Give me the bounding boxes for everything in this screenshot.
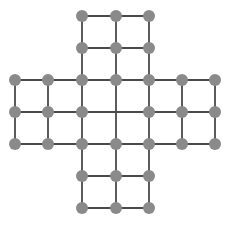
- graph-node: [143, 106, 155, 118]
- graph-node: [143, 138, 155, 150]
- graph-node: [110, 138, 122, 150]
- graph-node: [209, 138, 221, 150]
- graph-node: [9, 138, 21, 150]
- graph-node: [76, 10, 88, 22]
- graph-canvas: [0, 0, 237, 225]
- graph-figure: [0, 0, 237, 225]
- graph-node: [110, 202, 122, 214]
- graph-node: [76, 106, 88, 118]
- graph-node: [76, 74, 88, 86]
- graph-node: [209, 106, 221, 118]
- graph-node: [143, 202, 155, 214]
- graph-node: [209, 74, 221, 86]
- graph-node: [76, 170, 88, 182]
- graph-node: [143, 42, 155, 54]
- graph-node: [42, 138, 54, 150]
- graph-node: [9, 106, 21, 118]
- graph-node: [176, 138, 188, 150]
- graph-node: [143, 10, 155, 22]
- graph-node: [110, 42, 122, 54]
- graph-node: [176, 74, 188, 86]
- graph-node: [143, 74, 155, 86]
- graph-node: [110, 10, 122, 22]
- graph-node: [42, 106, 54, 118]
- graph-node: [110, 74, 122, 86]
- graph-node: [42, 74, 54, 86]
- graph-node: [143, 170, 155, 182]
- graph-node: [76, 202, 88, 214]
- graph-node: [110, 170, 122, 182]
- graph-node: [176, 106, 188, 118]
- graph-node: [76, 138, 88, 150]
- graph-node: [9, 74, 21, 86]
- graph-node: [76, 42, 88, 54]
